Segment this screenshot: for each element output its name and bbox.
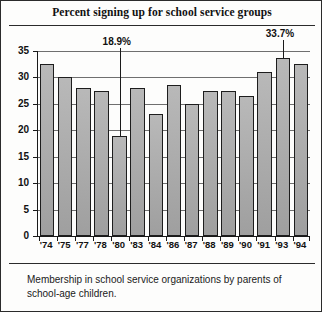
x-axis-label: '84: [146, 239, 164, 250]
y-axis-label: 20: [5, 125, 29, 135]
y-axis-label: 30: [5, 72, 29, 82]
y-axis-label: 5: [5, 205, 29, 215]
y-axis-tick: [33, 51, 38, 52]
x-axis-label: '94: [291, 239, 309, 250]
bar: [40, 64, 55, 236]
y-axis-tick: [33, 157, 38, 158]
y-axis-tick: [33, 104, 38, 105]
chart-figure: Percent signing up for school service gr…: [0, 0, 322, 312]
bar: [221, 91, 236, 236]
bar: [276, 58, 291, 236]
bar: [185, 104, 200, 236]
y-axis-tick: [33, 130, 38, 131]
value-callout: 33.7%: [266, 28, 294, 39]
x-axis-label: '90: [236, 239, 254, 250]
x-axis-label: '83: [128, 239, 146, 250]
y-axis-tick: [33, 183, 38, 184]
y-axis-label: 15: [5, 152, 29, 162]
bar: [76, 88, 91, 236]
bar: [94, 91, 109, 236]
x-axis-label: '80: [110, 239, 128, 250]
bar: [112, 136, 127, 236]
bar: [130, 88, 145, 236]
bar: [167, 85, 182, 236]
y-axis-tick: [33, 77, 38, 78]
x-axis-label: '87: [182, 239, 200, 250]
x-axis-label: '89: [218, 239, 236, 250]
x-axis-label: '93: [273, 239, 291, 250]
gridline: [38, 51, 310, 52]
chart-title: Percent signing up for school service gr…: [1, 6, 322, 18]
x-axis-label: '75: [55, 239, 73, 250]
plot-area: [37, 51, 310, 237]
bar: [203, 91, 218, 236]
title-divider: [9, 25, 315, 26]
x-axis-label: '88: [200, 239, 218, 250]
x-axis-tick: [309, 236, 310, 241]
x-axis-label: '74: [37, 239, 55, 250]
y-axis-label: 25: [5, 99, 29, 109]
bar: [58, 77, 73, 236]
y-axis-tick: [33, 236, 38, 237]
value-callout: 18.9%: [103, 36, 131, 47]
callout-stem: [283, 40, 284, 58]
y-axis-label: 0: [5, 231, 29, 241]
bar: [294, 64, 309, 236]
bar: [257, 72, 272, 236]
y-axis-label: 35: [5, 46, 29, 56]
chart-caption: Membership in school service organizatio…: [27, 273, 305, 300]
y-axis-label: 10: [5, 178, 29, 188]
x-axis-label: '91: [255, 239, 273, 250]
x-axis-label: '86: [164, 239, 182, 250]
caption-divider: [9, 263, 315, 264]
bar: [239, 96, 254, 236]
y-axis-tick: [33, 210, 38, 211]
x-axis-label: '77: [73, 239, 91, 250]
callout-stem: [120, 48, 121, 136]
bar: [149, 114, 164, 236]
x-axis-label: '78: [91, 239, 109, 250]
